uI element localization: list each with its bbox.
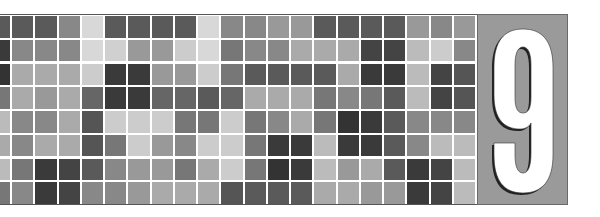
- mosaic-tile: [105, 87, 126, 109]
- mosaic-tile: [152, 40, 173, 62]
- mosaic-tile: [361, 16, 382, 38]
- mosaic-tile: [221, 159, 242, 181]
- mosaic-grid: [0, 14, 477, 205]
- mosaic-tile: [338, 135, 359, 157]
- mosaic-tile: [407, 87, 428, 109]
- mosaic-tile: [175, 135, 196, 157]
- mosaic-tile: [0, 159, 10, 181]
- mosaic-tile: [82, 159, 103, 181]
- mosaic-tile: [291, 64, 312, 86]
- mosaic-tile: [361, 40, 382, 62]
- mosaic-tile: [245, 64, 266, 86]
- mosaic-tile: [314, 159, 335, 181]
- mosaic-row: [0, 39, 477, 63]
- mosaic-tile: [12, 64, 33, 86]
- mosaic-tile: [454, 159, 475, 181]
- mosaic-tile: [384, 16, 405, 38]
- mosaic-tile: [454, 40, 475, 62]
- mosaic-tile: [314, 64, 335, 86]
- mosaic-row: [0, 181, 477, 205]
- mosaic-tile: [291, 159, 312, 181]
- mosaic-tile: [82, 111, 103, 133]
- mosaic-tile: [0, 135, 10, 157]
- mosaic-tile: [221, 87, 242, 109]
- mosaic-tile: [105, 40, 126, 62]
- mosaic-tile: [175, 182, 196, 204]
- mosaic-tile: [221, 64, 242, 86]
- mosaic-tile: [152, 111, 173, 133]
- mosaic-tile: [82, 135, 103, 157]
- mosaic-tile: [454, 16, 475, 38]
- mosaic-tile: [338, 111, 359, 133]
- mosaic-tile: [384, 87, 405, 109]
- mosaic-tile: [384, 135, 405, 157]
- mosaic-tile: [12, 40, 33, 62]
- mosaic-tile: [221, 40, 242, 62]
- mosaic-tile: [338, 40, 359, 62]
- mosaic-tile: [245, 111, 266, 133]
- mosaic-tile: [59, 159, 80, 181]
- mosaic-tile: [0, 87, 10, 109]
- mosaic-tile: [314, 182, 335, 204]
- mosaic-tile: [128, 64, 149, 86]
- mosaic-tile: [245, 135, 266, 157]
- mosaic-tile: [291, 40, 312, 62]
- mosaic-tile: [105, 135, 126, 157]
- mosaic-tile: [175, 159, 196, 181]
- mosaic-tile: [12, 182, 33, 204]
- mosaic-row: [0, 158, 477, 182]
- mosaic-tile: [198, 16, 219, 38]
- mosaic-tile: [105, 64, 126, 86]
- mosaic-tile: [338, 87, 359, 109]
- mosaic-tile: [35, 182, 56, 204]
- mosaic-tile: [82, 40, 103, 62]
- mosaic-tile: [152, 64, 173, 86]
- mosaic-tile: [59, 16, 80, 38]
- mosaic-tile: [0, 16, 10, 38]
- mosaic-tile: [314, 87, 335, 109]
- mosaic-tile: [128, 159, 149, 181]
- mosaic-tile: [128, 16, 149, 38]
- mosaic-tile: [361, 111, 382, 133]
- mosaic-tile: [105, 159, 126, 181]
- mosaic-tile: [245, 159, 266, 181]
- mosaic-tile: [407, 64, 428, 86]
- chapter-number-nine: [478, 15, 569, 206]
- mosaic-tile: [0, 182, 10, 204]
- mosaic-tile: [175, 64, 196, 86]
- mosaic-tile: [407, 111, 428, 133]
- mosaic-tile: [221, 182, 242, 204]
- mosaic-tile: [35, 87, 56, 109]
- mosaic-tile: [35, 135, 56, 157]
- mosaic-tile: [454, 182, 475, 204]
- mosaic-tile: [105, 111, 126, 133]
- mosaic-tile: [314, 135, 335, 157]
- mosaic-tile: [407, 182, 428, 204]
- mosaic-tile: [128, 87, 149, 109]
- mosaic-tile: [82, 16, 103, 38]
- mosaic-tile: [82, 182, 103, 204]
- mosaic-tile: [361, 135, 382, 157]
- mosaic-tile: [245, 16, 266, 38]
- mosaic-tile: [431, 16, 452, 38]
- mosaic-tile: [314, 16, 335, 38]
- mosaic-tile: [361, 64, 382, 86]
- mosaic-tile: [361, 159, 382, 181]
- mosaic-tile: [431, 87, 452, 109]
- mosaic-tile: [128, 111, 149, 133]
- mosaic-tile: [198, 182, 219, 204]
- mosaic-tile: [291, 87, 312, 109]
- mosaic-tile: [59, 135, 80, 157]
- mosaic-tile: [152, 135, 173, 157]
- mosaic-tile: [338, 16, 359, 38]
- mosaic-tile: [198, 135, 219, 157]
- mosaic-tile: [82, 64, 103, 86]
- mosaic-tile: [221, 111, 242, 133]
- mosaic-tile: [152, 182, 173, 204]
- mosaic-tile: [431, 111, 452, 133]
- mosaic-tile: [338, 159, 359, 181]
- mosaic-tile: [175, 16, 196, 38]
- mosaic-tile: [152, 159, 173, 181]
- mosaic-tile: [35, 40, 56, 62]
- mosaic-tile: [221, 135, 242, 157]
